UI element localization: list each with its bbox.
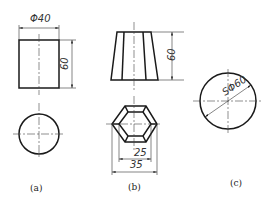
frustum-top-view: 25 35 [106,96,162,175]
cylinder-top-view [13,103,64,158]
dimension-height-a: 60 [59,57,70,70]
dimension-outer-width-b: 35 [130,159,143,170]
panel-a: Φ40 60 (a) [13,13,76,193]
dimension-diameter-a: Φ40 [30,13,51,24]
dimension-diameter-c: SΦ60 [220,73,248,97]
caption-a: (a) [30,183,42,193]
caption-c: (c) [230,178,242,188]
engineering-drawing: Φ40 60 (a) 60 [0,0,271,206]
dimension-height-b: 60 [166,48,177,61]
panel-b: 60 25 35 (b) [106,22,184,192]
frustum-front-view: 60 [111,22,184,90]
panel-c: SΦ60 (c) [193,69,263,188]
cylinder-front-view: Φ40 60 [19,13,76,95]
caption-b: (b) [128,182,141,192]
dimension-inner-width-b: 25 [134,147,147,158]
sphere-view: SΦ60 [193,69,263,134]
